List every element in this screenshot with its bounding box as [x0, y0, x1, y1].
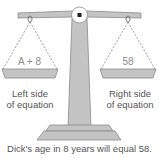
scale-post — [68, 18, 91, 128]
right-pan-text: 58 — [122, 56, 134, 67]
right-label-line2: of equation — [100, 99, 159, 110]
balance-scale: A + 8 58 — [0, 0, 159, 158]
right-pan — [100, 69, 156, 78]
scale-base-bottom — [37, 131, 121, 140]
caption: Dick's age in 8 years will equal 58. — [0, 143, 159, 154]
left-label-line2: of equation — [0, 99, 60, 110]
left-label-line1: Left side — [0, 88, 60, 99]
scale-base-top — [46, 125, 113, 131]
left-pan — [2, 69, 58, 78]
left-pan-text: A + 8 — [18, 56, 42, 67]
left-side-label: Left side of equation — [0, 88, 60, 110]
pivot-pin — [78, 13, 82, 17]
right-label-line1: Right side — [100, 88, 159, 99]
right-side-label: Right side of equation — [100, 88, 159, 110]
